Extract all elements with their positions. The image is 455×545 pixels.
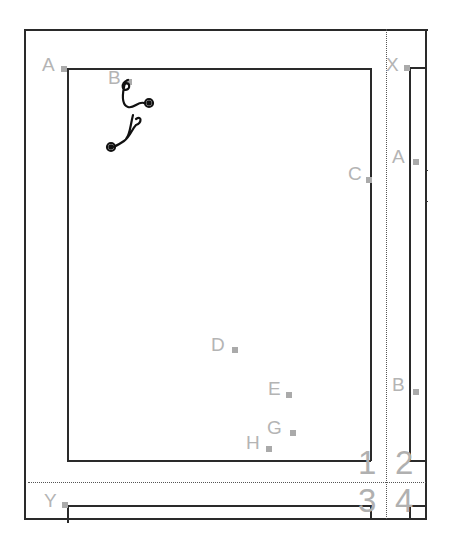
point-marker-c	[366, 177, 372, 183]
bottom-strip-top	[67, 505, 371, 507]
quadrant-number-1: 1	[358, 446, 376, 479]
inner-rect-left	[67, 68, 69, 461]
point-label-a: A	[42, 55, 55, 74]
outer-frame-right	[425, 29, 427, 519]
quadrant-number-3: 3	[358, 484, 376, 517]
point-marker-a2	[413, 159, 419, 165]
point-marker-h	[266, 446, 272, 452]
edge-tick	[425, 201, 428, 202]
point-label-c: C	[348, 164, 362, 183]
right-strip-top	[409, 67, 427, 69]
quadrant-number-2: 2	[395, 446, 413, 479]
point-label-h: H	[246, 433, 260, 452]
point-label-x: X	[386, 55, 399, 74]
point-label-a2: A	[392, 147, 405, 166]
inner-rect-right	[370, 68, 372, 461]
point-label-y: Y	[44, 491, 57, 510]
dotted-guide-vertical	[386, 29, 387, 519]
point-marker-y	[62, 502, 68, 508]
inner-rect-bottom	[67, 460, 371, 462]
quadrant-number-4: 4	[395, 484, 413, 517]
point-marker-a	[61, 66, 67, 72]
calligraphic-flourish-icon	[100, 75, 170, 160]
point-marker-g	[290, 430, 296, 436]
outer-frame-left	[24, 29, 26, 519]
point-marker-b2	[413, 389, 419, 395]
point-marker-e	[286, 392, 292, 398]
point-marker-x	[404, 65, 410, 71]
point-label-b2: B	[392, 375, 405, 394]
point-label-d: D	[211, 335, 225, 354]
point-label-g: G	[267, 418, 282, 437]
edge-tick	[425, 170, 428, 171]
right-strip-left	[409, 67, 411, 461]
point-marker-d	[232, 347, 238, 353]
point-label-e: E	[268, 379, 281, 398]
outer-frame-top	[24, 29, 428, 31]
